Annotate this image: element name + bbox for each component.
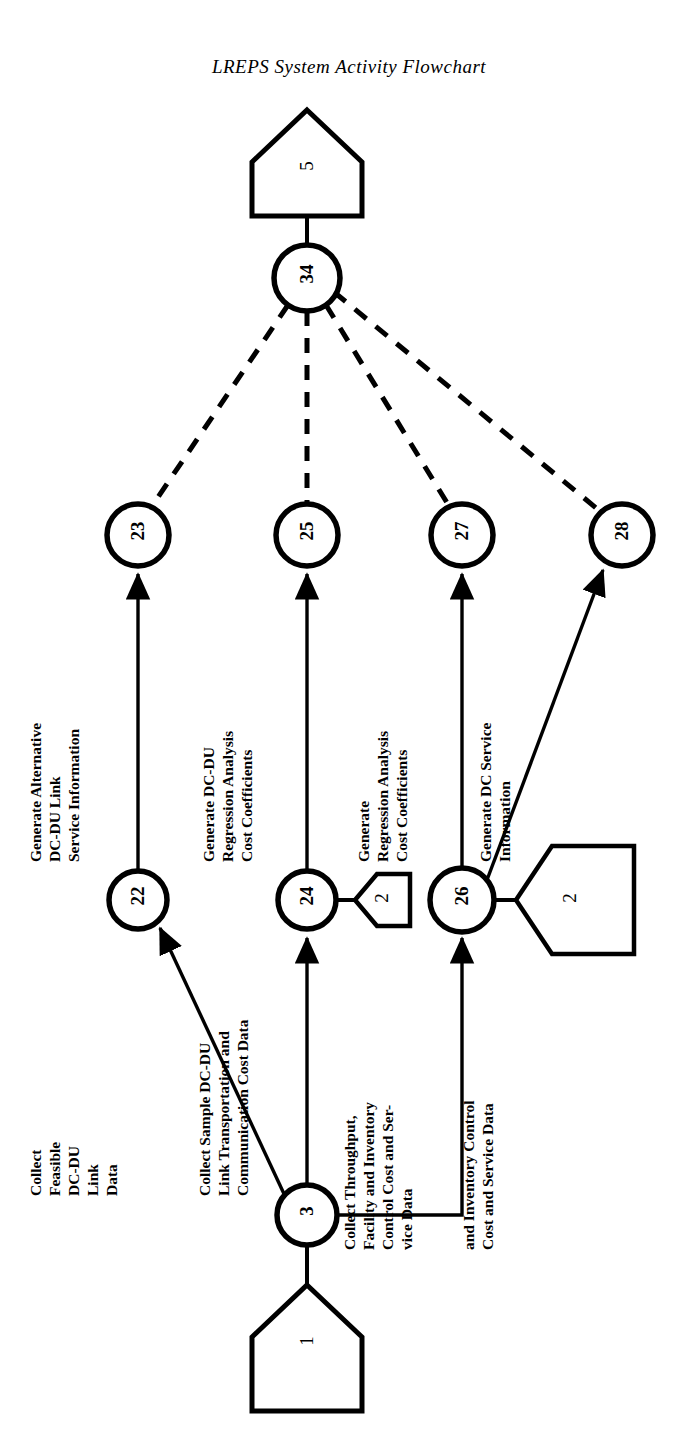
node-label-27: 27 (451, 511, 473, 551)
node-label-28: 28 (611, 511, 633, 551)
node-label-3: 3 (296, 1191, 318, 1231)
shape-label-2b: 2 (559, 885, 581, 911)
edge-label-3-to-22: Collect Feasible DC-DU Link Data (27, 1142, 122, 1196)
edge-label-24-to-25: Generate DC-DU Regression Analysis Cost … (200, 731, 257, 862)
node-label-24: 24 (296, 876, 318, 916)
shape-label-5: 5 (296, 146, 318, 186)
node-label-25: 25 (296, 511, 318, 551)
edge-label-3-to-26-part1: Collect Throughput, Facility and Invento… (341, 1102, 417, 1250)
node-label-23: 23 (127, 511, 149, 551)
edge-label-22-to-23: Generate Alternative DC-DU Link Service … (27, 723, 84, 862)
edge-label-3-to-26-part2: and Inventory Control Cost and Service D… (460, 1100, 498, 1250)
edge-label-26-to-28: Generate DC Service Information (477, 723, 515, 862)
edge-label-26-to-27: Generate Regression Analysis Cost Coeffi… (355, 731, 412, 862)
shape-label-2a: 2 (371, 885, 393, 911)
edge-label-3-to-24: Collect Sample DC-DU Link Transportation… (196, 1019, 253, 1196)
edge-34-to-28 (334, 292, 601, 512)
shape-label-1: 1 (296, 1321, 318, 1361)
node-label-26: 26 (451, 876, 473, 916)
node-label-22: 22 (127, 876, 149, 916)
node-label-34: 34 (296, 254, 318, 294)
edge-34-to-23 (152, 305, 288, 506)
